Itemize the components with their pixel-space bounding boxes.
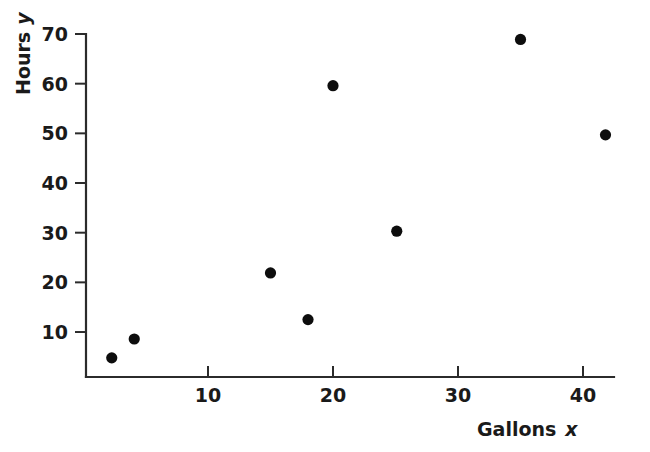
y-axis-title-text: Hoursy [12,11,34,95]
axes-group [86,34,614,377]
y-axis-title: Hoursy [12,11,34,95]
x-tick-label-10: 10 [195,384,221,406]
y-axis-ticks [75,34,86,332]
x-axis-tick-labels: 10203040 [195,384,596,406]
data-point [129,333,140,344]
data-points-group [106,34,611,364]
y-tick-label-30: 30 [42,222,68,244]
data-point [265,267,276,278]
x-tick-label-40: 40 [570,384,596,406]
y-tick-label-50: 50 [42,122,68,144]
plot-canvas: 10203040506070 10203040 Hoursy Gallonsx [0,0,650,452]
data-point [600,129,611,140]
data-point [106,352,117,363]
y-axis-tick-labels: 10203040506070 [42,23,68,343]
y-tick-label-20: 20 [42,271,68,293]
x-axis-title: Gallonsx [477,418,578,440]
x-axis-ticks [208,366,583,377]
y-tick-label-40: 40 [42,172,68,194]
data-point [302,314,313,325]
x-tick-label-20: 20 [320,384,346,406]
x-tick-label-30: 30 [445,384,471,406]
x-axis-title-text: Gallonsx [477,418,578,440]
y-tick-label-10: 10 [42,321,68,343]
data-point [327,80,338,91]
data-point [515,34,526,45]
y-tick-label-60: 60 [42,73,68,95]
y-tick-label-70: 70 [42,23,68,45]
scatter-plot-figure: 10203040506070 10203040 Hoursy Gallonsx [0,0,650,452]
data-point [391,226,402,237]
